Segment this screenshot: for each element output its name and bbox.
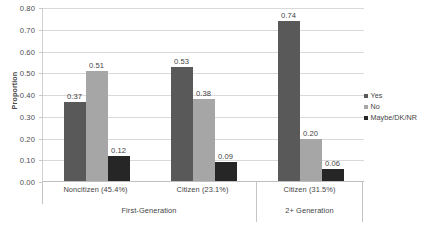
bar-group: 0.370.510.12 — [64, 8, 130, 182]
y-axis-tick-labels: 0.800.700.600.500.400.300.200.100.00 — [0, 0, 38, 182]
bar[interactable]: 0.51 — [86, 71, 108, 182]
legend-swatch-icon — [364, 105, 368, 109]
legend-label: Maybe/DK/NR — [371, 113, 417, 122]
bar[interactable]: 0.74 — [278, 21, 300, 182]
legend-label: Yes — [371, 91, 383, 100]
category-label: Citizen (23.1%) — [149, 185, 256, 194]
category-separator — [362, 182, 363, 222]
y-tick-label: 0.00 — [20, 178, 35, 187]
y-tick-label: 0.10 — [20, 156, 35, 165]
bar[interactable]: 0.20 — [300, 139, 322, 183]
bar[interactable]: 0.12 — [108, 156, 130, 182]
legend-swatch-icon — [364, 116, 368, 120]
group-label: First-Generation — [42, 206, 256, 215]
bar[interactable]: 0.53 — [171, 67, 193, 182]
bar-value-label: 0.53 — [174, 57, 189, 66]
category-separator — [42, 182, 43, 204]
legend-swatch-icon — [364, 94, 368, 98]
bar-value-label: 0.09 — [218, 152, 233, 161]
bar-value-label: 0.38 — [196, 89, 211, 98]
bar-group: 0.530.380.09 — [171, 8, 237, 182]
legend-item[interactable]: Yes — [364, 90, 429, 101]
group-label: 2+ Generation — [256, 206, 363, 215]
grouped-bar-chart: Proportion 0.800.700.600.500.400.300.200… — [0, 0, 429, 227]
category-axis: Noncitizen (45.4%)Citizen (23.1%)Citizen… — [42, 182, 363, 227]
bar-value-label: 0.51 — [89, 61, 104, 70]
plot-area: 0.370.510.120.530.380.090.740.200.06 — [42, 8, 364, 182]
y-tick-label: 0.30 — [20, 112, 35, 121]
chart-legend: YesNoMaybe/DK/NR — [364, 90, 429, 123]
legend-label: No — [371, 102, 380, 111]
bar-value-label: 0.74 — [281, 11, 296, 20]
legend-item[interactable]: Maybe/DK/NR — [364, 112, 429, 123]
y-tick-label: 0.50 — [20, 69, 35, 78]
bar[interactable]: 0.09 — [215, 162, 237, 182]
bar-value-label: 0.20 — [303, 129, 318, 138]
bar-value-label: 0.06 — [325, 159, 340, 168]
y-tick-label: 0.40 — [20, 91, 35, 100]
bar[interactable]: 0.38 — [193, 99, 215, 182]
category-separator — [256, 182, 257, 222]
y-tick-label: 0.80 — [20, 4, 35, 13]
bar[interactable]: 0.37 — [64, 102, 86, 182]
category-label: Noncitizen (45.4%) — [42, 185, 149, 194]
bars-layer: 0.370.510.120.530.380.090.740.200.06 — [43, 8, 364, 182]
y-tick-label: 0.70 — [20, 25, 35, 34]
bar-value-label: 0.12 — [111, 146, 126, 155]
y-tick-label: 0.60 — [20, 47, 35, 56]
y-tick-label: 0.20 — [20, 134, 35, 143]
bar-group: 0.740.200.06 — [278, 8, 344, 182]
legend-item[interactable]: No — [364, 101, 429, 112]
bar-value-label: 0.37 — [67, 92, 82, 101]
category-label: Citizen (31.5%) — [256, 185, 363, 194]
